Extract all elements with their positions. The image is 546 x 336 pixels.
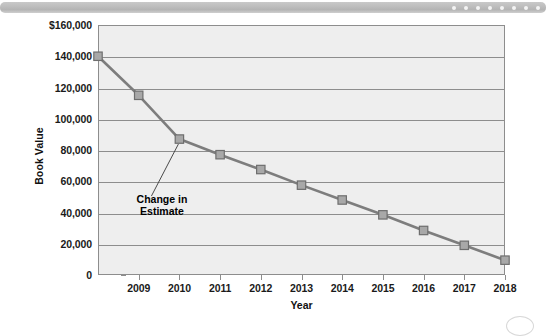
x-axis-tick-mark [179,275,180,280]
x-axis-tick-mark [383,275,384,280]
y-axis-tick-label: 60,000 [60,175,92,187]
x-axis-tick-label: 2011 [209,282,231,294]
gridline [99,151,504,152]
x-axis-tick-mark [302,275,303,280]
x-axis-label-group: 2009201020112012201320142015201620172018 [0,282,546,298]
annotation-change-in-estimate: Change in Estimate [110,194,214,218]
x-axis-tick-label: 2018 [494,282,517,294]
top-bar-dot [536,6,540,10]
x-axis-tick-mark [424,275,425,280]
top-bar-dot [476,6,480,10]
x-axis-tick-label: 2010 [168,282,191,294]
page-number-bubble [506,316,534,336]
x-axis-tick-label: 2015 [371,282,394,294]
top-bar-dot [452,6,456,10]
x-axis-tick-label: 2014 [331,282,354,294]
book-value-line-chart: Book Value $160,000140,000120,000100,000… [0,14,546,304]
top-bar-dot [512,6,516,10]
y-axis-tick-label: 40,000 [60,207,92,219]
x-axis-tick-label: 2016 [412,282,435,294]
decorative-top-bar [0,2,546,13]
y-axis-tick-label: 140,000 [55,50,92,62]
x-axis-tick-mark [342,275,343,280]
y-axis-tick-label: $160,000 [49,19,92,31]
y-axis-tick-label: 120,000 [55,82,92,94]
top-bar-dot [500,6,504,10]
x-axis-tick-label: 2013 [290,282,313,294]
y-axis-tick-label: 20,000 [60,238,92,250]
x-axis-tick-mark [464,275,465,280]
y-axis-label-group: $160,000140,000120,000100,00080,00060,00… [28,25,92,275]
gridline [99,182,504,183]
y-axis-tick-label: 0 [86,269,92,281]
x-axis-tick-mark [261,275,262,280]
gridline [99,120,504,121]
annotation-line-2: Estimate [110,206,214,218]
gridline [99,57,504,58]
x-axis-tick-label: 2017 [453,282,476,294]
x-axis-tick-label: 2012 [249,282,272,294]
x-axis-tick-mark [505,275,506,280]
x-axis-tick-group [98,275,505,281]
y-axis-tick-label: 80,000 [60,144,92,156]
y-axis-tick-label: 100,000 [55,113,92,125]
x-axis-title: Year [98,299,505,311]
x-axis-tick-label: 2009 [127,282,150,294]
top-bar-dot [524,6,528,10]
gridline [99,245,504,246]
annotation-line-1: Change in [110,194,214,206]
plot-area [98,25,505,275]
top-bar-dot [488,6,492,10]
x-axis-tick-mark [220,275,221,280]
gridline [99,89,504,90]
top-bar-dot [464,6,468,10]
x-axis-tick-mark [139,275,140,280]
top-bar-dot-group [452,2,540,13]
